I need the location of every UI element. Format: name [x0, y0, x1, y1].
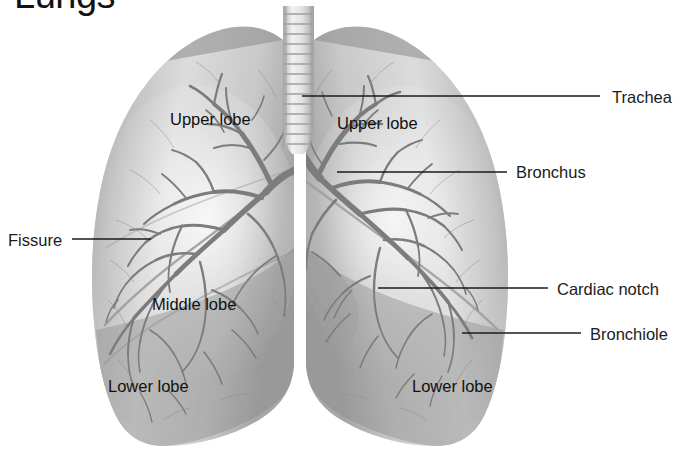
label-lower-lobe-left: Lower lobe [108, 377, 189, 396]
label-cardiac-notch: Cardiac notch [557, 280, 659, 299]
label-upper-lobe-right: Upper lobe [337, 114, 418, 133]
label-bronchus: Bronchus [516, 163, 586, 182]
page-title: Lungs [14, 0, 115, 17]
lungs-illustration [0, 0, 679, 450]
trachea [282, 6, 314, 154]
lungs-diagram-figure: Lungs Upper lobe Upper lobe Middle lobe … [0, 0, 679, 450]
label-fissure: Fissure [8, 231, 62, 250]
label-lower-lobe-right: Lower lobe [412, 377, 493, 396]
label-upper-lobe-left: Upper lobe [170, 110, 251, 129]
label-trachea: Trachea [612, 88, 672, 107]
label-middle-lobe: Middle lobe [152, 295, 236, 314]
label-bronchiole: Bronchiole [590, 325, 668, 344]
